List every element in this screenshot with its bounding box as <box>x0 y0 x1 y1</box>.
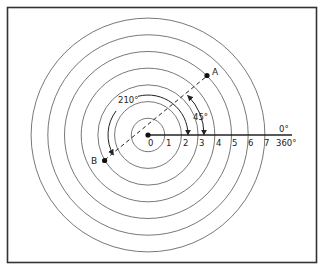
ring-label-4: 4 <box>216 138 221 148</box>
ring-label-5: 5 <box>232 138 237 148</box>
point-b-label: B <box>91 156 97 166</box>
center-label: 0 <box>148 138 153 148</box>
ring-label-2: 2 <box>183 138 188 148</box>
point-a-label: A <box>212 67 219 77</box>
polar-diagram: A B 210° 45° 0 1 2 3 4 5 6 7 0° 360° <box>0 0 325 265</box>
axis-label-360-degrees: 360° <box>276 138 296 148</box>
axis-label-0-degrees: 0° <box>279 124 289 134</box>
angle-label-45: 45° <box>193 112 208 122</box>
point-a <box>204 73 209 78</box>
point-b <box>102 158 107 163</box>
origin-point <box>145 132 150 137</box>
ring-label-7: 7 <box>264 138 269 148</box>
ring-label-6: 6 <box>248 138 253 148</box>
ring-label-1: 1 <box>166 138 171 148</box>
ring-label-3: 3 <box>199 138 204 148</box>
angle-label-210: 210° <box>118 95 138 105</box>
